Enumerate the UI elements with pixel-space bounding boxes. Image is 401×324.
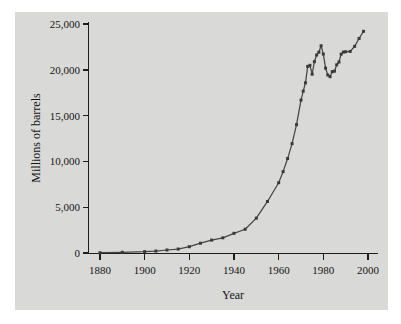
- x-tick-label: 1900: [134, 264, 157, 276]
- x-tick-label: 1980: [312, 264, 335, 276]
- data-point: [233, 232, 236, 235]
- x-tick-label: 1920: [178, 264, 201, 276]
- data-point: [320, 44, 323, 47]
- data-point: [337, 61, 340, 64]
- y-axis-tick-labels: 05,00010,00015,00020,00025,000: [50, 18, 81, 259]
- data-point: [221, 236, 224, 239]
- data-point: [244, 228, 247, 231]
- x-tick-label: 1960: [268, 264, 291, 276]
- data-point: [177, 248, 180, 251]
- data-point: [322, 53, 325, 56]
- y-axis-title: Millions of barrels: [29, 93, 43, 183]
- data-point: [286, 157, 289, 160]
- data-point: [333, 70, 336, 73]
- data-point: [291, 142, 294, 145]
- data-point: [302, 90, 305, 93]
- chart-figure: 05,00010,00015,00020,00025,000 188019001…: [0, 0, 401, 324]
- x-tick-label: 1940: [223, 264, 246, 276]
- data-point: [344, 50, 347, 53]
- data-point: [353, 45, 356, 48]
- data-point: [166, 249, 169, 252]
- data-point: [358, 37, 361, 40]
- y-tick-label: 5,000: [55, 201, 80, 213]
- data-point: [349, 50, 352, 53]
- data-point: [300, 99, 303, 102]
- data-point: [255, 217, 258, 220]
- y-tick-label: 25,000: [50, 18, 81, 30]
- chart-plot-area: 05,00010,00015,00020,00025,000 188019001…: [0, 0, 401, 324]
- data-point: [282, 170, 285, 173]
- y-tick-label: 20,000: [50, 64, 81, 76]
- data-point: [199, 242, 202, 245]
- data-point: [304, 81, 307, 84]
- data-point: [308, 64, 311, 67]
- data-point: [315, 53, 318, 56]
- y-tick-label: 0: [75, 247, 81, 259]
- data-point: [210, 239, 213, 242]
- data-point: [277, 181, 280, 184]
- y-tick-label: 10,000: [50, 155, 81, 167]
- x-axis-tick-labels: 1880190019201940196019802000: [89, 264, 380, 276]
- x-axis-title: Year: [222, 288, 244, 302]
- data-point: [121, 251, 124, 254]
- data-point: [362, 30, 365, 33]
- data-point: [154, 250, 157, 253]
- oil-production-line: [100, 31, 364, 252]
- data-point: [324, 67, 327, 70]
- data-point: [311, 73, 314, 76]
- data-point: [329, 75, 332, 78]
- data-point: [317, 51, 320, 54]
- data-point: [295, 123, 298, 126]
- data-point: [188, 245, 191, 248]
- x-tick-label: 1880: [89, 264, 112, 276]
- y-tick-label: 15,000: [50, 110, 81, 122]
- data-point: [335, 63, 338, 66]
- data-point: [99, 251, 102, 254]
- data-point: [313, 60, 316, 63]
- data-point: [143, 250, 146, 253]
- data-point: [266, 200, 269, 203]
- x-tick-label: 2000: [357, 264, 380, 276]
